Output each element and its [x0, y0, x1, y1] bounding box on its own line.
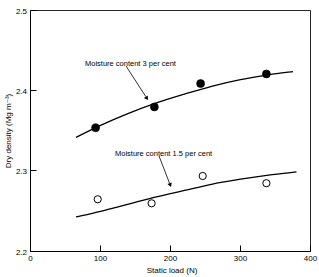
x-tick-label-400: 400 [304, 254, 318, 263]
data-point [94, 196, 101, 203]
fit-curve-moisture-3-per-cent [76, 72, 293, 138]
y-tick-label-2.4: 2.4 [16, 87, 28, 96]
chart-plot-area: 2.5 2.4 2.3 2.2 0 100 200 300 400 Static… [0, 0, 319, 277]
data-point [150, 103, 158, 111]
x-tick-label-300: 300 [234, 254, 248, 263]
annotation-upper-leader-line [126, 66, 146, 97]
fit-curve-moisture-1-5-per-cent [76, 172, 297, 217]
y-tick-label-2.2: 2.2 [16, 248, 28, 257]
y-tick-label-2.5: 2.5 [16, 7, 28, 16]
data-points-moisture-1-5-per-cent [94, 172, 270, 207]
x-axis-title: Static load (N) [147, 266, 198, 275]
annotation-lower: Moisture content 1.5 per cent [115, 149, 213, 187]
axes-frame [31, 11, 311, 252]
x-tick-label-0: 0 [28, 254, 33, 263]
annotation-lower-label: Moisture content 1.5 per cent [115, 149, 213, 158]
x-axis-tick-labels: 0 100 200 300 400 [28, 254, 317, 263]
y-axis-title: Dry density (Mg m⁻³) [4, 93, 13, 168]
data-point [263, 180, 270, 187]
annotation-lower-leader-line [159, 156, 170, 183]
data-point [262, 70, 270, 78]
annotation-upper: Moisture content 3 per cent [85, 59, 177, 100]
y-tick-label-2.3: 2.3 [16, 167, 28, 176]
y-axis-ticks [31, 11, 37, 252]
data-point [199, 172, 206, 179]
chart-figure: 2.5 2.4 2.3 2.2 0 100 200 300 400 Static… [0, 0, 319, 277]
annotation-upper-arrowhead [144, 95, 148, 100]
data-point [197, 80, 205, 88]
x-axis-ticks [31, 246, 311, 252]
annotation-upper-label: Moisture content 3 per cent [85, 59, 177, 68]
x-tick-label-200: 200 [164, 254, 178, 263]
data-point [148, 200, 155, 207]
data-point [92, 124, 100, 132]
x-tick-label-100: 100 [94, 254, 108, 263]
y-axis-tick-labels: 2.5 2.4 2.3 2.2 [16, 7, 28, 257]
